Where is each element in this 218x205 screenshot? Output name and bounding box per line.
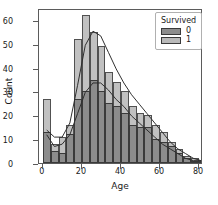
histogram-bar	[51, 151, 59, 163]
histogram-bar	[98, 91, 106, 163]
histogram-bar	[66, 134, 74, 163]
histogram-bar	[121, 113, 129, 163]
histogram-bar	[160, 142, 168, 163]
histogram-bar	[82, 91, 90, 163]
histogram-bar	[105, 103, 113, 163]
histogram-bar	[183, 158, 191, 163]
histogram-bar	[144, 127, 152, 163]
histogram-bar	[137, 127, 145, 163]
y-tick-label: 40	[0, 64, 13, 73]
histogram-bar	[43, 132, 51, 163]
histogram-bar	[129, 125, 137, 163]
x-tick-mark	[81, 164, 82, 169]
x-axis-label: Age	[38, 181, 202, 191]
legend-title: Survived	[161, 16, 196, 25]
histogram-bar	[152, 139, 160, 163]
histogram-bar	[113, 106, 121, 163]
histogram-figure: Count Age 0102030405060 020406080 Surviv…	[0, 0, 218, 205]
legend-swatch	[161, 28, 181, 35]
y-tick-mark	[33, 164, 38, 165]
x-tick-mark	[159, 164, 160, 169]
histogram-bar	[191, 161, 199, 163]
legend-item-label: 0	[186, 27, 191, 35]
legend-item: 0	[161, 27, 196, 35]
legend-entries: 01	[161, 27, 196, 44]
histogram-bar	[90, 80, 98, 163]
legend-item-label: 1	[186, 36, 191, 44]
y-tick-label: 10	[0, 136, 13, 145]
y-tick-label: 50	[0, 40, 13, 49]
histogram-bar	[74, 99, 82, 163]
y-tick-label: 0	[0, 160, 13, 169]
x-tick-mark	[42, 164, 43, 169]
legend-item: 1	[161, 36, 196, 44]
histogram-bar	[59, 153, 67, 163]
y-tick-label: 20	[0, 112, 13, 121]
y-tick-label: 30	[0, 88, 13, 97]
legend: Survived 01	[155, 12, 202, 50]
histogram-bar	[176, 153, 184, 163]
x-tick-mark	[120, 164, 121, 169]
x-tick-mark	[198, 164, 199, 169]
histogram-bar	[168, 146, 176, 163]
histogram-bar	[199, 161, 202, 163]
legend-swatch	[161, 37, 181, 44]
y-tick-label: 60	[0, 16, 13, 25]
